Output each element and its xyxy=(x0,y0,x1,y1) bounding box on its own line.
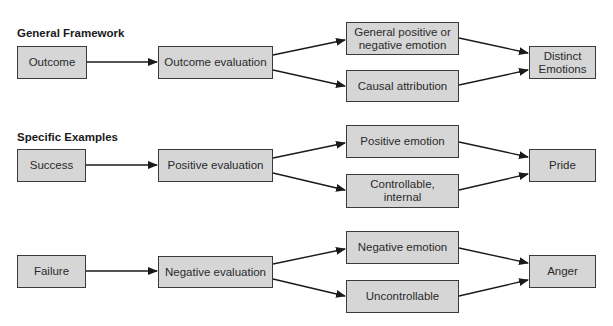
node-outcome: Outcome xyxy=(17,46,87,79)
node-uncontrollable: Uncontrollable xyxy=(346,280,459,313)
node-general-emotion: General positive or negative emotion xyxy=(346,22,459,55)
node-anger: Anger xyxy=(529,255,596,288)
node-controllable-internal: Controllable, internal xyxy=(346,174,459,208)
node-failure: Failure xyxy=(17,255,86,288)
node-outcome-evaluation: Outcome evaluation xyxy=(158,46,273,79)
node-causal-attribution: Causal attribution xyxy=(346,70,459,102)
node-pride: Pride xyxy=(529,149,596,182)
node-success: Success xyxy=(17,149,86,182)
node-negative-emotion: Negative emotion xyxy=(346,231,459,264)
node-distinct-emotions: Distinct Emotions xyxy=(529,46,596,79)
flow-arrows xyxy=(0,0,613,326)
section-heading-general-framework: General Framework xyxy=(17,27,124,39)
section-heading-specific-examples: Specific Examples xyxy=(17,131,118,143)
node-negative-evaluation: Negative evaluation xyxy=(158,256,273,288)
node-positive-evaluation: Positive evaluation xyxy=(158,149,273,182)
node-positive-emotion: Positive emotion xyxy=(346,125,459,158)
